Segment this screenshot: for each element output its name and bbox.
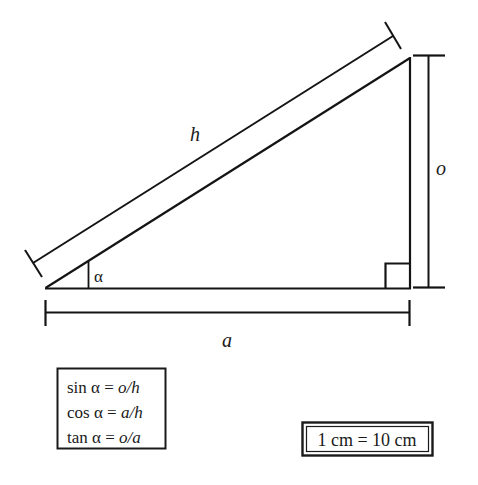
- triangle-shape: [45, 57, 411, 289]
- formula-cos: cos α = a/h: [67, 403, 143, 422]
- formula-tan-fn: tan: [67, 428, 88, 447]
- adjacent-label: a: [222, 329, 232, 351]
- formula-sin: sin α = o/h: [67, 378, 140, 397]
- hypotenuse-tick-start: [25, 250, 42, 277]
- formula-row-sin: sin α = o/h: [67, 378, 140, 397]
- scale-note-text: 1 cm = 10 cm: [317, 430, 416, 450]
- opposite-dimension: o: [413, 55, 446, 288]
- formula-cos-den: h: [134, 403, 143, 422]
- formula-tan-num: o: [119, 428, 128, 447]
- formula-row-cos: cos α = a/h: [67, 403, 143, 422]
- hypotenuse-tick-end: [385, 22, 401, 49]
- hypotenuse-dimension-line: [33, 36, 393, 263]
- triangle-hypotenuse-line: [46, 58, 411, 288]
- formula-tan-angle: α: [92, 428, 101, 447]
- formula-cos-num: a: [121, 403, 130, 422]
- angle-alpha-label: α: [94, 267, 103, 286]
- formula-sin-den: h: [131, 378, 140, 397]
- right-angle-square: [386, 264, 411, 289]
- adjacent-dimension: a: [45, 300, 410, 351]
- right-angle-marker: [386, 264, 411, 289]
- scale-note-box: 1 cm = 10 cm: [303, 423, 433, 456]
- trigonometry-diagram: α h o a: [0, 0, 478, 485]
- formula-sin-eq: =: [104, 378, 114, 397]
- formula-row-tan: tan α = o/a: [67, 428, 141, 447]
- opposite-label: o: [436, 157, 446, 179]
- formula-tan-eq: =: [105, 428, 115, 447]
- formula-sin-fn: sin: [67, 378, 87, 397]
- formula-sin-num: o: [118, 378, 127, 397]
- formula-tan: tan α = o/a: [67, 428, 141, 447]
- formula-cos-angle: α: [94, 403, 103, 422]
- formula-sin-angle: α: [91, 378, 100, 397]
- hypotenuse-label: h: [190, 123, 200, 145]
- angle-alpha-marker: α: [89, 261, 104, 288]
- diagram-canvas: α h o a: [0, 0, 478, 485]
- formula-cos-fn: cos: [67, 403, 90, 422]
- hypotenuse-dimension: h: [25, 22, 401, 277]
- formula-tan-den: a: [132, 428, 141, 447]
- formula-cos-eq: =: [107, 403, 117, 422]
- formula-box: sin α = o/h cos α = a/h tan α = o/a: [58, 369, 166, 449]
